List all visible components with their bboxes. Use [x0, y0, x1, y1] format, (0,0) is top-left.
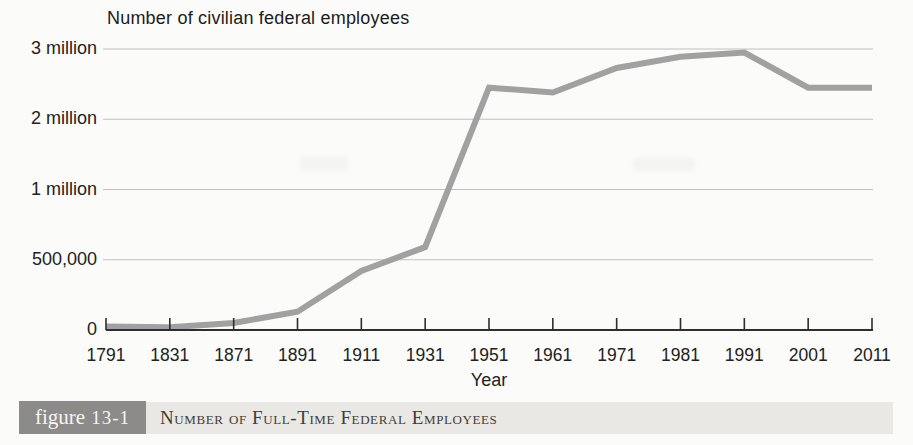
x-axis-title: Year	[471, 370, 507, 391]
figure-caption-band: Number of Full-Time Federal Employees	[146, 402, 893, 434]
figure-caption-text: Number of Full-Time Federal Employees	[146, 407, 497, 429]
x-tick-label-1991: 1991	[709, 345, 779, 366]
y-tick-label-3-million: 3 million	[0, 38, 97, 59]
figure-number: 13-1	[91, 407, 130, 429]
x-tick-label-1791: 1791	[71, 345, 141, 366]
x-tick-label-1831: 1831	[135, 345, 205, 366]
scan-smudge-1	[300, 157, 348, 170]
figure-label-box: figure 13-1	[19, 401, 146, 434]
x-tick-label-2011: 2011	[837, 345, 907, 366]
line-chart-plot-area	[0, 0, 913, 400]
x-tick-label-1871: 1871	[199, 345, 269, 366]
y-tick-label-500-000: 500,000	[0, 249, 97, 270]
x-tick-label-1981: 1981	[646, 345, 716, 366]
y-tick-label-0: 0	[0, 319, 97, 340]
y-tick-label-2-million: 2 million	[0, 108, 97, 129]
y-tick-label-1-million: 1 million	[0, 179, 97, 200]
figure-word: figure	[35, 405, 85, 430]
x-tick-label-1961: 1961	[518, 345, 588, 366]
x-tick-label-1911: 1911	[326, 345, 396, 366]
x-tick-label-2001: 2001	[773, 345, 843, 366]
x-tick-label-1891: 1891	[263, 345, 333, 366]
x-tick-label-1971: 1971	[582, 345, 652, 366]
x-tick-label-1951: 1951	[454, 345, 524, 366]
x-tick-label-1931: 1931	[390, 345, 460, 366]
scan-smudge-2	[633, 158, 695, 171]
